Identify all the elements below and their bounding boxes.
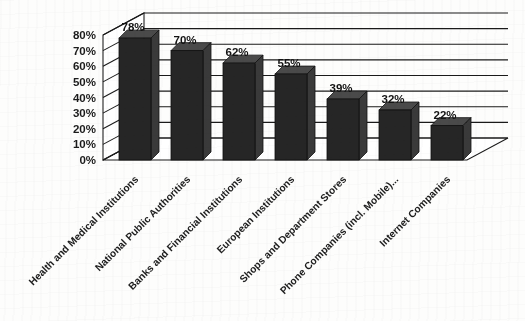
bar bbox=[171, 43, 211, 160]
bar-value-label: 62% bbox=[225, 46, 248, 58]
bar bbox=[431, 118, 471, 160]
bar bbox=[275, 66, 315, 160]
category-axis-label: Banks and Financial Institutions bbox=[126, 173, 244, 291]
bar-value-label: 70% bbox=[173, 34, 196, 46]
bar bbox=[327, 91, 367, 160]
bar bbox=[379, 102, 419, 160]
y-axis-tick-labels: 0%10%20%30%40%50%60%70%80% bbox=[73, 29, 96, 166]
bar-chart: 0%10%20%30%40%50%60%70%80% 78%70%62%55%3… bbox=[0, 0, 525, 321]
bars bbox=[119, 30, 471, 160]
y-axis-tick-label: 40% bbox=[73, 92, 96, 104]
bar-value-label: 22% bbox=[433, 109, 456, 121]
bar-value-label: 32% bbox=[381, 93, 404, 105]
y-axis-tick-label: 30% bbox=[73, 107, 96, 119]
y-axis-tick-label: 70% bbox=[73, 45, 96, 57]
y-axis-tick-label: 20% bbox=[73, 123, 96, 135]
y-axis-tick-label: 10% bbox=[73, 138, 96, 150]
category-axis-label: Shops and Department Stores bbox=[237, 173, 348, 284]
category-axis-label: National Public Authorities bbox=[93, 173, 193, 273]
y-axis-tick-label: 60% bbox=[73, 60, 96, 72]
y-axis-tick-label: 0% bbox=[79, 154, 96, 166]
bar-value-label: 55% bbox=[277, 57, 300, 69]
category-axis-labels: Health and Medical InstitutionsNational … bbox=[27, 173, 453, 296]
bar bbox=[223, 55, 263, 160]
bar-value-label: 39% bbox=[329, 82, 352, 94]
bar bbox=[119, 30, 159, 160]
y-axis-tick-label: 50% bbox=[73, 76, 96, 88]
category-axis-label: Health and Medical Institutions bbox=[27, 173, 141, 287]
y-axis-tick-label: 80% bbox=[73, 29, 96, 41]
chart-container: 0%10%20%30%40%50%60%70%80% 78%70%62%55%3… bbox=[0, 0, 525, 321]
bar-value-label: 78% bbox=[121, 21, 144, 33]
